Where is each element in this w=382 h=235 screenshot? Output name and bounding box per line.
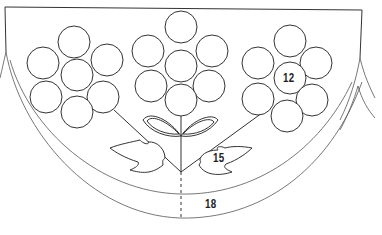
right-wing-leaf: [199, 147, 252, 175]
petal-circle: [61, 96, 93, 128]
petal-circle: [91, 44, 123, 76]
petal-circle: [165, 11, 197, 43]
petal-circle: [242, 47, 274, 79]
petal-circle: [271, 100, 303, 132]
petal-circle: [132, 35, 164, 67]
left-flower: [27, 26, 123, 128]
petal-circle: [196, 35, 228, 67]
left-tulip-leaf-inner: [147, 118, 179, 134]
top-edge-line: [5, 7, 362, 10]
petal-circle: [274, 25, 306, 57]
petal-circle: [61, 59, 93, 91]
border-band-label: 18: [205, 196, 217, 211]
left-wing-leaf: [110, 140, 165, 172]
left-edge-line: [5, 7, 6, 52]
middle-flower: [132, 11, 228, 116]
right-tulip-leaf: [181, 117, 218, 137]
petal-circle: [165, 50, 197, 82]
petal-circle: [30, 81, 62, 113]
petal-circle: [242, 83, 274, 115]
petal-circle: [58, 26, 90, 58]
right-curve-b: [360, 58, 375, 98]
right-curve-d: [358, 86, 375, 118]
right-edge-line: [360, 10, 362, 58]
petal-circle: [135, 70, 167, 102]
petal-circle: [27, 47, 59, 79]
right-tulip-leaf-inner: [183, 120, 214, 134]
embroidery-pattern-diagram: [0, 0, 382, 235]
petal-circle: [193, 70, 225, 102]
petal-circle: [165, 84, 197, 116]
center-flower-label: 12: [283, 70, 295, 85]
leaf-label: 15: [213, 150, 225, 165]
left-outer-arc: [0, 52, 6, 78]
